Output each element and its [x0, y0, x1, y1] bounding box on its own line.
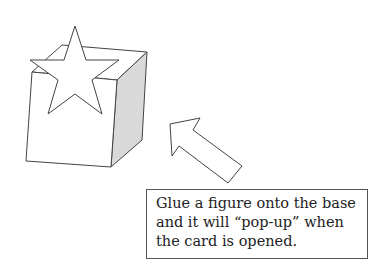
caption-line-3: the card is opened. [156, 232, 361, 251]
arrow-icon [170, 118, 242, 183]
caption-line-2: and it will “pop-up” when [156, 213, 361, 232]
caption-line-1: Glue a figure onto the base [156, 194, 361, 213]
caption-box: Glue a figure onto the base and it will … [146, 189, 368, 259]
